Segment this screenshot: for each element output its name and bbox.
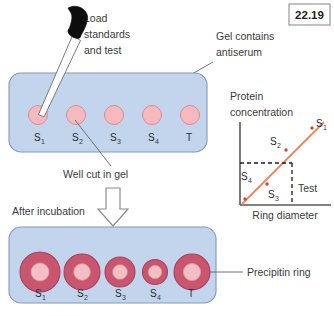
precipitin-ring-group: [20, 252, 210, 292]
gel-contains-label-line2: antiserum: [216, 46, 262, 58]
chart-label-s2: S: [270, 136, 277, 147]
gel-contains-label-line1: Gel contains: [216, 30, 274, 42]
well-s4: [143, 106, 162, 125]
down-arrow-icon: [98, 188, 128, 226]
well-label-s2-sub: 2: [79, 138, 83, 145]
well-label-t: T: [186, 132, 192, 143]
figure-svg: 22.19 Load standards and test Gel contai…: [0, 0, 334, 316]
precipitin-ring-s4: [143, 260, 168, 285]
well-label-s3-sub: 3: [117, 138, 121, 145]
figure-number: 22.19: [295, 9, 324, 21]
after-incubation-label: After incubation: [12, 205, 85, 217]
ring-label-t: T: [188, 288, 194, 299]
well-s3: [105, 106, 124, 125]
well-label-s2: S: [72, 132, 79, 143]
ring-label-s2-sub: 2: [84, 294, 88, 301]
load-label-line3: and test: [84, 44, 121, 56]
well-label-s1: S: [34, 132, 41, 143]
chart-point-s2: [284, 148, 287, 151]
chart-label-s3-sub: 3: [275, 195, 279, 202]
ring-label-s3: S: [115, 288, 122, 299]
ring-label-s3-sub: 3: [122, 294, 126, 301]
chart-annotation-test: Test: [298, 182, 317, 194]
chart-label-s2-sub: 2: [277, 142, 281, 149]
precipitin-ring-annotation: Precipitin ring: [210, 266, 311, 278]
ring-label-s4-sub: 4: [157, 294, 161, 301]
chart-label-s1: S: [316, 118, 323, 129]
ring-label-s1-sub: 1: [42, 294, 46, 301]
load-label-line2: standards: [84, 28, 130, 40]
chart-point-s4: [243, 197, 246, 200]
precipitin-ring-label: Precipitin ring: [247, 266, 311, 278]
load-annotation: Load standards and test: [84, 12, 130, 56]
well-cut-label: Well cut in gel: [63, 168, 128, 180]
gel-before-incubation: S 1 S 2 S 3 S 4 T: [9, 73, 207, 152]
figure-number-box: 22.19: [289, 4, 330, 25]
well-label-s1-sub: 1: [41, 138, 45, 145]
chart-point-s3: [265, 182, 268, 185]
standard-curve-chart: Protein concentration S 1 S 2 S 3 S 4 Te…: [230, 90, 331, 221]
chart-ylabel-line2: concentration: [230, 106, 293, 118]
gel-after-incubation: S 1 S 2 S 3 S 4 T: [9, 227, 216, 303]
ring-label-s2: S: [77, 288, 84, 299]
ring-label-s1: S: [35, 288, 42, 299]
chart-label-s1-sub: 1: [323, 124, 327, 131]
precipitin-ring-s3: [105, 257, 135, 287]
well-label-s3: S: [110, 132, 117, 143]
chart-label-s4-sub: 4: [248, 177, 252, 184]
precipitin-ring-s2: [64, 254, 100, 290]
ring-label-s4: S: [150, 288, 157, 299]
well-label-s4: S: [148, 132, 155, 143]
chart-ylabel-line1: Protein: [230, 90, 263, 102]
chart-label-s3: S: [268, 189, 275, 200]
figure-container: 22.19 Load standards and test Gel contai…: [0, 0, 334, 316]
well-label-s4-sub: 4: [155, 138, 159, 145]
chart-label-s4: S: [241, 171, 248, 182]
precipitin-ring-s1: [20, 252, 60, 292]
chart-xlabel: Ring diameter: [252, 209, 318, 221]
precipitin-ring-t: [174, 254, 210, 290]
well-t: [181, 106, 200, 125]
chart-point-s1: [310, 126, 313, 129]
arrow-shape: [98, 188, 128, 226]
